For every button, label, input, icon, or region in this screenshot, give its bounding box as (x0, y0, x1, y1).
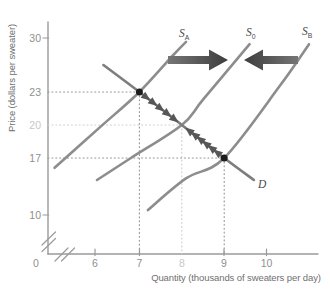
equilibrium-dot-q7 (136, 89, 143, 96)
y-tick-label-10: 10 (29, 209, 41, 221)
curve-label-sa-sub: A (185, 34, 190, 41)
y-tick-label-30: 30 (29, 32, 41, 44)
x-tick-label-10: 10 (261, 257, 273, 269)
curve-label-sb: SB (302, 25, 313, 39)
x-tick-label-7: 7 (137, 257, 143, 269)
curve-label-d: D (257, 178, 267, 190)
supply-demand-chart: 30 23 20 17 10 0 6 7 8 9 10 Quantity (th… (0, 0, 330, 297)
y-tick-label-20: 20 (29, 119, 41, 131)
curve-label-d-main: D (257, 178, 267, 190)
y-axis-break (42, 239, 56, 252)
y-axis-title: Price (dollars per sweater) (6, 24, 17, 132)
curve-label-sa: SA (179, 27, 190, 41)
x-tick-label-8: 8 (179, 257, 185, 269)
curve-label-s0-sub: 0 (252, 33, 256, 40)
x-tick-label-9: 9 (221, 257, 227, 269)
y-axis-break (42, 232, 56, 245)
demand-curve-d (103, 65, 254, 180)
x-tick-label-6: 6 (92, 257, 98, 269)
equilibrium-dot-q9 (221, 155, 228, 162)
shift-arrow-left (244, 50, 298, 71)
y-tick-label-17: 17 (29, 152, 41, 164)
x-axis-title: Quantity (thousands of sweaters per day) (151, 272, 321, 283)
curve-label-s0: S0 (246, 26, 256, 40)
supply-curve-sa (55, 42, 186, 168)
plot-area (48, 42, 309, 254)
x-tick-label-0: 0 (33, 257, 39, 269)
curve-label-sb-sub: B (308, 32, 313, 39)
y-tick-label-23: 23 (29, 86, 41, 98)
